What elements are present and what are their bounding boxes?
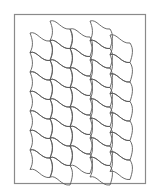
- border-frame: [15, 15, 146, 184]
- lattice-cell: [110, 54, 132, 82]
- lattice-cell: [90, 118, 112, 146]
- lattice-cell: [30, 33, 52, 61]
- lattice-cell: [110, 35, 132, 63]
- lattice-cell: [50, 157, 72, 185]
- lattice-cell: [90, 138, 112, 166]
- lattice-cell: [70, 126, 92, 154]
- lattice-cell: [50, 60, 72, 88]
- lattice-cell: [110, 74, 132, 102]
- lattice-cell: [110, 113, 132, 141]
- lattice-cell: [50, 138, 72, 166]
- lattice-cell: [30, 72, 52, 100]
- lattice-cell: [90, 21, 112, 49]
- lattice-cell: [110, 132, 132, 160]
- lattice-cell: [30, 52, 52, 80]
- lattice-cell: [30, 91, 52, 119]
- ogee-lattice: [30, 21, 132, 185]
- lattice-cell: [70, 48, 92, 76]
- lattice-cell: [90, 99, 112, 127]
- lattice-cell: [90, 60, 112, 88]
- quilt-pattern-diagram: [0, 0, 153, 194]
- lattice-cell: [110, 152, 132, 180]
- lattice-cell: [50, 21, 72, 49]
- lattice-cell: [50, 79, 72, 107]
- lattice-cell: [50, 99, 72, 127]
- lattice-cell: [70, 68, 92, 96]
- lattice-cell: [70, 87, 92, 115]
- lattice-cell: [90, 157, 112, 185]
- lattice-cell: [70, 107, 92, 135]
- lattice-cell: [70, 146, 92, 174]
- lattice-cell: [30, 150, 52, 178]
- lattice-cell: [50, 40, 72, 68]
- lattice-cell: [110, 93, 132, 121]
- lattice-cell: [70, 29, 92, 57]
- lattice-cell: [30, 111, 52, 139]
- lattice-cell: [90, 79, 112, 107]
- lattice-cell: [50, 118, 72, 146]
- lattice-cell: [30, 130, 52, 158]
- lattice-cell: [90, 40, 112, 68]
